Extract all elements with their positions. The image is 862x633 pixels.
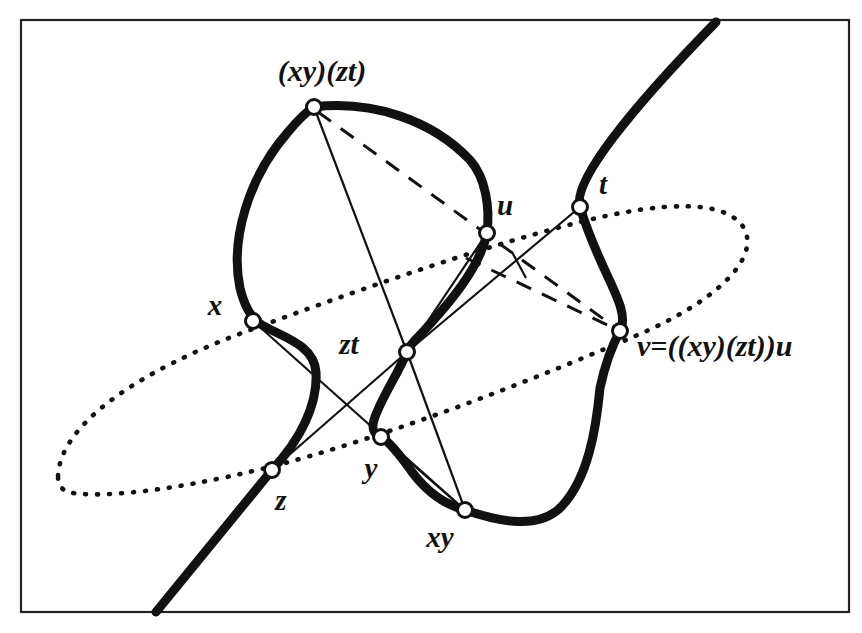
label-u: u (497, 189, 513, 221)
figure-root: (xy)(zt) u t v=((xy)(zt))u x zt y z xy (0, 0, 862, 633)
vertex-marker-y[interactable] (374, 430, 389, 445)
vertex-marker-x[interactable] (246, 314, 261, 329)
label-top-product: (xy)(zt) (278, 54, 366, 88)
vertex-marker-zt[interactable] (400, 345, 415, 360)
vertex-marker-top-product[interactable] (307, 100, 322, 115)
label-z: z (274, 484, 287, 516)
vertex-marker-u[interactable] (480, 226, 495, 241)
vertex-marker-v[interactable] (613, 324, 628, 339)
vertex-marker-t[interactable] (573, 200, 588, 215)
knot-diagram: (xy)(zt) u t v=((xy)(zt))u x zt y z xy (0, 0, 862, 633)
label-v: v=((xy)(zt))u (637, 329, 792, 363)
label-t: t (599, 168, 608, 200)
label-x: x (207, 289, 223, 321)
vertex-marker-xy[interactable] (458, 503, 473, 518)
label-xy: xy (425, 521, 454, 553)
label-zt: zt (338, 328, 359, 360)
vertex-marker-z[interactable] (265, 463, 280, 478)
label-y: y (362, 452, 378, 484)
